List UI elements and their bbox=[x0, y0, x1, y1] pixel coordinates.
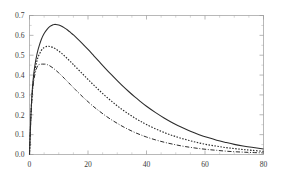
y-tick-label: 0.4 bbox=[15, 71, 25, 80]
y-tick-label: 0.6 bbox=[15, 31, 25, 40]
x-tick-label: 20 bbox=[84, 160, 92, 169]
y-tick-label: 0.2 bbox=[15, 111, 25, 120]
y-tick-label: 0.1 bbox=[15, 130, 25, 139]
x-tick-label: 80 bbox=[260, 160, 268, 169]
chart-container: 020406080 0.00.10.20.30.40.50.60.7 bbox=[0, 0, 282, 180]
y-tick-label: 0.0 bbox=[15, 150, 25, 159]
y-tick-label: 0.5 bbox=[15, 51, 25, 60]
x-tick-label: 60 bbox=[201, 160, 209, 169]
line-chart-plot: 020406080 0.00.10.20.30.40.50.60.7 bbox=[0, 0, 282, 180]
y-tick-label: 0.7 bbox=[15, 11, 25, 20]
chart-background bbox=[0, 0, 282, 180]
y-tick-label: 0.3 bbox=[15, 91, 25, 100]
x-tick-label: 40 bbox=[143, 160, 151, 169]
x-tick-label: 0 bbox=[28, 160, 32, 169]
